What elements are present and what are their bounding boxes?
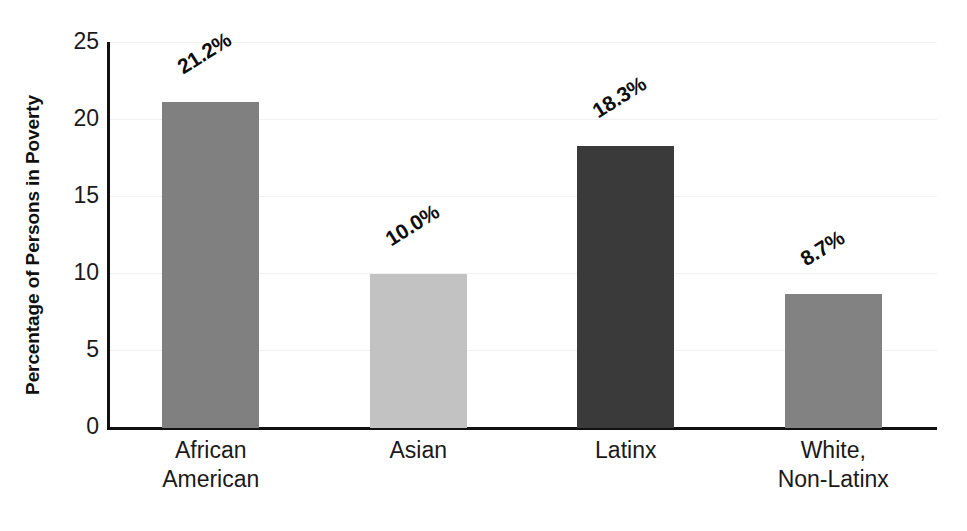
x-label-line: Asian bbox=[315, 436, 523, 465]
y-axis-tick-labels: 0510152025 bbox=[35, 0, 99, 531]
bar-latinx bbox=[577, 146, 674, 428]
y-tick-label-25: 25 bbox=[41, 30, 99, 53]
x-label-2: Latinx bbox=[522, 436, 730, 465]
x-label-line: American bbox=[107, 465, 315, 494]
x-label-0: AfricanAmerican bbox=[107, 436, 315, 495]
y-tick-label-15: 15 bbox=[41, 184, 99, 207]
y-tick-label-20: 20 bbox=[41, 107, 99, 130]
y-tick-label-10: 10 bbox=[41, 261, 99, 284]
x-label-1: Asian bbox=[315, 436, 523, 465]
bars-layer bbox=[107, 42, 937, 428]
y-tick-label-5: 5 bbox=[41, 338, 99, 361]
x-label-line: White, bbox=[730, 436, 938, 465]
y-tick-label-0: 0 bbox=[41, 415, 99, 438]
x-axis-category-labels: AfricanAmericanAsianLatinxWhite,Non-Lati… bbox=[107, 436, 937, 528]
x-label-line: Non-Latinx bbox=[730, 465, 938, 494]
poverty-bar-chart: Percentage of Persons in Poverty 0510152… bbox=[0, 0, 967, 531]
bar-asian bbox=[370, 274, 467, 428]
x-label-3: White,Non-Latinx bbox=[730, 436, 938, 495]
x-label-line: African bbox=[107, 436, 315, 465]
bar-white-non-latinx bbox=[785, 294, 882, 428]
x-label-line: Latinx bbox=[522, 436, 730, 465]
bar-african-american bbox=[162, 102, 259, 428]
